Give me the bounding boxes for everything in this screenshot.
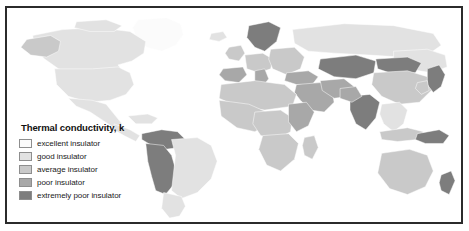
- region-iceland: [209, 32, 227, 42]
- legend-label: average insulator: [37, 165, 98, 174]
- region-new-zealand: [439, 171, 455, 195]
- region-central-asia: [318, 55, 375, 79]
- legend-items: excellent insulatorgood insulatoraverage…: [19, 137, 179, 202]
- legend-title: Thermal conductivity, k: [21, 122, 179, 133]
- region-japan: [427, 65, 445, 92]
- region-australia: [378, 149, 434, 194]
- legend-label: extremely poor insulator: [37, 191, 121, 200]
- region-scandinavia: [247, 22, 281, 51]
- region-southeast-asia: [380, 102, 408, 131]
- thermal-conductivity-map-figure: Thermal conductivity, k excellent insula…: [0, 0, 469, 231]
- legend-row: average insulator: [19, 163, 179, 176]
- legend-row: excellent insulator: [19, 137, 179, 150]
- region-southern-africa: [259, 134, 299, 171]
- legend-row: good insulator: [19, 150, 179, 163]
- legend-swatch: [19, 178, 32, 187]
- legend-label: poor insulator: [37, 178, 85, 187]
- legend-swatch: [19, 139, 32, 148]
- legend-swatch: [19, 152, 32, 161]
- region-madagascar: [302, 136, 318, 160]
- legend-label: good insulator: [37, 152, 87, 161]
- legend-label: excellent insulator: [37, 139, 100, 148]
- region-iberia: [219, 67, 247, 83]
- legend-swatch: [19, 191, 32, 200]
- region-uk-ireland: [225, 45, 245, 61]
- legend-swatch: [19, 165, 32, 174]
- region-turkey-caucasus: [285, 71, 319, 85]
- legend-row: poor insulator: [19, 176, 179, 189]
- legend-row: extremely poor insulator: [19, 189, 179, 202]
- region-united-states: [55, 67, 134, 102]
- legend: Thermal conductivity, k excellent insula…: [19, 122, 179, 202]
- figure-frame: Thermal conductivity, k excellent insula…: [5, 6, 463, 224]
- region-eastern-europe: [269, 47, 305, 74]
